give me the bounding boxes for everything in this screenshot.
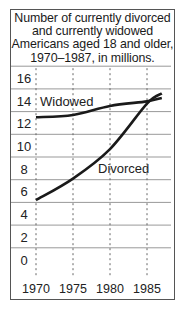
y-tick-0: 0	[20, 253, 27, 268]
x-tick-1975: 1975	[59, 282, 87, 296]
y-tick-16: 16	[17, 71, 31, 86]
y-tick-4: 4	[20, 207, 27, 222]
data-lines	[36, 93, 162, 200]
y-tick-2: 2	[20, 230, 27, 245]
x-tick-1985: 1985	[133, 282, 161, 296]
x-tick-1970: 1970	[22, 282, 50, 296]
y-tick-10: 10	[17, 139, 31, 154]
series-label-divorced: Divorced	[98, 161, 149, 176]
y-tick-6: 6	[20, 184, 27, 199]
y-axis-tick-labels: 1614121086420	[17, 71, 31, 268]
y-tick-14: 14	[17, 94, 31, 109]
y-tick-12: 12	[17, 116, 31, 131]
series-label-widowed: Widowed	[40, 94, 93, 109]
x-tick-1980: 1980	[96, 282, 124, 296]
y-tick-8: 8	[20, 162, 27, 177]
x-axis-tick-labels: 1970197519801985	[22, 282, 161, 296]
plot-area: 1614121086420 1970197519801985 WidowedDi…	[0, 0, 186, 312]
